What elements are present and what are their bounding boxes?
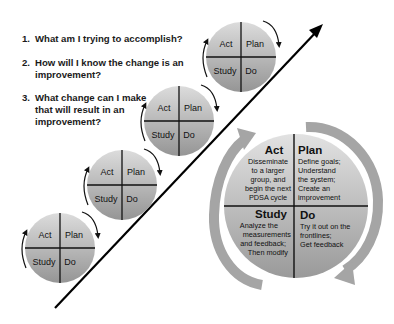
big-act-line: Disseminate <box>248 157 288 166</box>
big-do-title: Do <box>300 209 315 221</box>
big-act-line: to a larger <box>252 166 285 175</box>
big-do-line: Try it out on the <box>300 222 350 231</box>
big-study-line: Analyze the <box>240 221 278 230</box>
diagram-canvas: Act Plan Study Do Act Plan Study Do Act … <box>0 0 394 324</box>
cycle-3-do: Do <box>183 130 195 140</box>
big-study-title: Study <box>255 208 288 220</box>
big-study-line: measurements <box>243 230 292 239</box>
pdsa-ramp-diagram: 1. What am I trying to accomplish? 2. Ho… <box>0 0 394 324</box>
big-plan-line: Understand <box>298 166 336 175</box>
cycle-1-study: Study <box>32 257 56 267</box>
pdsa-cycle-small-1: Act Plan Study Do <box>22 212 98 283</box>
big-plan-line: the system; <box>298 175 335 184</box>
cycle-3-plan: Plan <box>184 103 202 113</box>
pdsa-cycle-detailed: Act Disseminate to a larger group, and b… <box>224 134 368 278</box>
cycle-1-act: Act <box>38 230 52 240</box>
cycle-2-do: Do <box>126 194 138 204</box>
pdsa-cycle-small-3: Act Plan Study Do <box>141 85 217 156</box>
big-act-line: begin the next <box>245 184 291 193</box>
cycle-2-plan: Plan <box>127 167 145 177</box>
cycle-1-do: Do <box>64 257 76 267</box>
big-plan-title: Plan <box>298 144 322 156</box>
cycle-1-plan: Plan <box>65 230 83 240</box>
cycle-4-plan: Plan <box>246 39 264 49</box>
cycle-3-act: Act <box>157 103 171 113</box>
cycle-4-study: Study <box>213 66 237 76</box>
big-study-line: Then modify <box>248 248 289 257</box>
cycle-2-study: Study <box>94 194 118 204</box>
cycle-4-act: Act <box>219 39 233 49</box>
big-act-line: PDSA cycle <box>249 193 287 202</box>
big-plan-line: Define goals; <box>298 157 341 166</box>
big-act-line: group, and <box>251 175 286 184</box>
big-act-title: Act <box>265 144 284 156</box>
pdsa-cycle-small-4: Act Plan Study Do <box>203 21 279 92</box>
big-do-line: Get feedback <box>300 240 344 249</box>
big-plan-line: improvement <box>298 193 340 202</box>
big-do-line: frontlines; <box>300 231 332 240</box>
big-study-line: and feedback; <box>240 239 286 248</box>
cycle-4-do: Do <box>245 66 257 76</box>
cycle-3-study: Study <box>151 130 175 140</box>
big-plan-line: Create an <box>298 184 330 193</box>
cycle-2-act: Act <box>100 167 114 177</box>
